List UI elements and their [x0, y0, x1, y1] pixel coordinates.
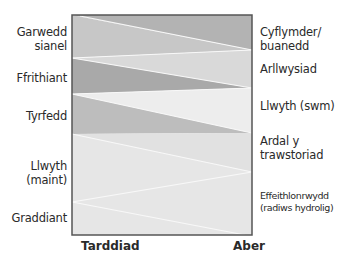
label-load-amount: Llwyth (swm)	[260, 99, 334, 113]
label-discharge: Arllwysiad	[260, 62, 317, 76]
label-line: (maint)	[26, 173, 67, 187]
label-line: buanedd	[260, 39, 321, 53]
label-line: (radiws hydrolig)	[260, 202, 333, 214]
label-line: Graddiant	[11, 211, 67, 225]
label-line: Ffrithiant	[17, 71, 67, 85]
label-velocity: Cyflymder/ buanedd	[260, 25, 321, 53]
label-load-size: Llwyth (maint)	[26, 159, 67, 187]
label-channel-roughness: Garwedd sianel	[17, 25, 67, 53]
label-turbulence: Tyrfedd	[26, 109, 67, 123]
label-line: trawstoriad	[260, 148, 323, 162]
label-line: Llwyth	[26, 159, 67, 173]
axis-label-source: Tarddiad	[81, 239, 140, 253]
axis-label-mouth: Aber	[233, 239, 265, 253]
label-friction: Ffrithiant	[17, 71, 67, 85]
label-efficiency: Effeithlonrwydd (radiws hydrolig)	[260, 190, 333, 214]
label-line: Cyflymder/	[260, 25, 321, 39]
label-line: Ardal y	[260, 134, 323, 148]
label-gradient: Graddiant	[11, 211, 67, 225]
label-line: sianel	[17, 39, 67, 53]
label-line: Llwyth (swm)	[260, 99, 334, 113]
label-line: Effeithlonrwydd	[260, 190, 333, 202]
label-line: Tyrfedd	[26, 109, 67, 123]
label-line: Arllwysiad	[260, 62, 317, 76]
label-cross-section-area: Ardal y trawstoriad	[260, 134, 323, 162]
label-line: Garwedd	[17, 25, 67, 39]
